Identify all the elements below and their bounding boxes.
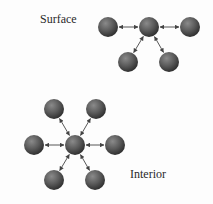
surface-tension-diagram: Surface Interior <box>0 0 213 204</box>
molecule-diagram: Surface Interior <box>0 0 213 204</box>
interior-neighbor-molecule <box>105 135 125 155</box>
interior-neighbor-molecule <box>24 135 44 155</box>
double-arrow-icon <box>154 37 163 53</box>
double-arrow-icon <box>134 36 144 52</box>
interior-molecules <box>24 99 125 190</box>
double-arrow-icon <box>81 119 91 136</box>
interior-label: Interior <box>130 167 166 181</box>
double-arrow-icon <box>60 154 70 170</box>
surface-neighbor-molecule <box>159 52 179 72</box>
double-arrow-icon <box>80 155 89 171</box>
interior-neighbor-molecule <box>86 99 106 119</box>
surface-label: Surface <box>40 12 77 26</box>
interior-center-molecule <box>65 135 85 155</box>
surface-center-molecule <box>139 17 159 37</box>
surface-neighbor-molecule <box>180 17 200 37</box>
double-arrow-icon <box>60 119 70 136</box>
surface-neighbor-molecule <box>98 17 118 37</box>
surface-neighbor-molecule <box>118 52 138 72</box>
interior-neighbor-molecule <box>44 170 64 190</box>
interior-neighbor-molecule <box>85 170 105 190</box>
surface-molecules <box>98 17 200 72</box>
interior-neighbor-molecule <box>44 99 64 119</box>
